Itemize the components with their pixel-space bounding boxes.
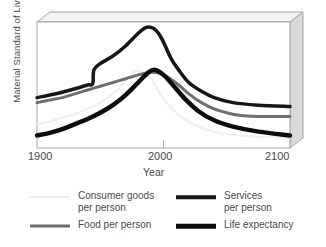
legend-label-consumer-goods: Consumer goods per person [78,190,154,213]
legend-item-services: Services per person [176,190,316,212]
legend-item-consumer-goods: Consumer goods per person [30,190,170,212]
legend-label-line1: Life expectancy [224,219,294,231]
line-swatch-black-icon [176,221,216,231]
line-swatch-light-icon [30,192,70,202]
legend-label-life-expectancy: Life expectancy [224,219,294,231]
frame-right-panel [290,12,303,148]
chart-legend: Consumer goods per person Food per perso… [0,190,326,247]
legend-column-left: Consumer goods per person Food per perso… [30,190,170,247]
legend-label-line1: Food per person [78,219,151,231]
x-axis-tick-1900: 1900 [28,150,52,162]
x-axis-tick-2000: 2000 [148,150,172,162]
line-swatch-gray-icon [30,221,70,231]
frame-top-panel [37,12,303,22]
legend-label-line1: Services [224,190,272,202]
legend-item-food-per-person: Food per person [30,219,170,241]
legend-label-line2: per person [78,202,154,214]
legend-label-food-per-person: Food per person [78,219,151,231]
line-swatch-dark-icon [176,192,216,202]
legend-label-line1: Consumer goods [78,190,154,202]
x-axis-title: Year [143,166,164,178]
legend-item-life-expectancy: Life expectancy [176,219,316,241]
legend-label-services: Services per person [224,190,272,213]
legend-label-line2: per person [224,202,272,214]
x-axis-tick-2100: 2100 [265,150,289,162]
y-axis-title: Material Standard of Living [11,0,25,115]
chart-container: Material Standard of Living 1900 2000 21… [0,0,326,247]
legend-column-right: Services per person Life expectancy [176,190,316,247]
